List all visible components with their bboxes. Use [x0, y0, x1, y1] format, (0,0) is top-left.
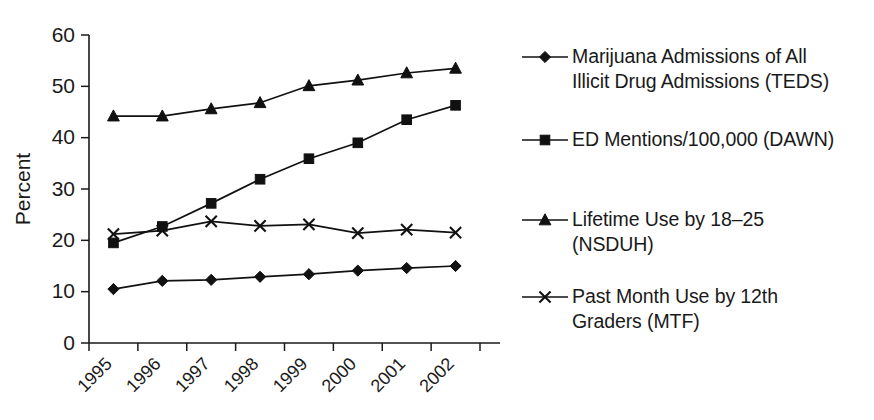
marker-diamond: [539, 51, 550, 62]
legend-entry-label: Lifetime Use by 18–25 (NSDUH): [572, 207, 764, 257]
marker-square: [540, 135, 550, 145]
legend-entry-label: Marijuana Admissions of All Illicit Drug…: [572, 44, 829, 94]
legend-entry-label: Past Month Use by 12th Graders (MTF): [572, 284, 778, 334]
chart-container: 0102030405060 19951996199719981999200020…: [0, 0, 874, 420]
legend-entry[interactable]: [522, 214, 568, 225]
legend-entry[interactable]: [522, 51, 568, 62]
legend-entry[interactable]: [522, 291, 568, 302]
legend-entry-label: ED Mentions/100,000 (DAWN): [572, 127, 834, 152]
legend-entry[interactable]: [522, 135, 568, 145]
